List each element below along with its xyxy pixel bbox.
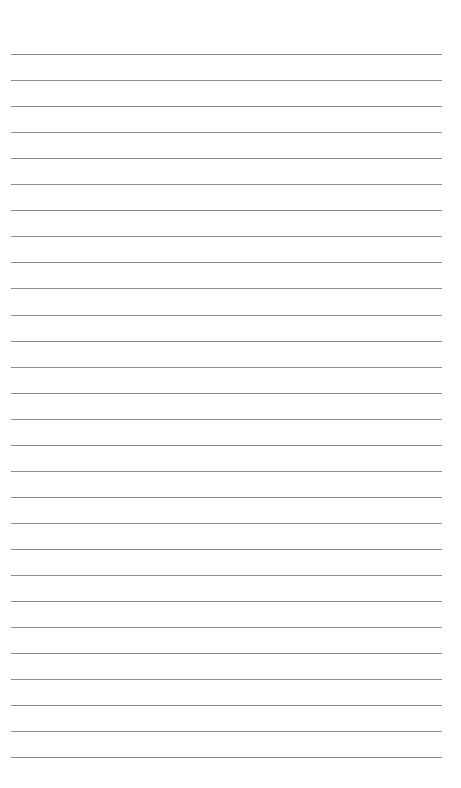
ruled-line <box>11 288 442 289</box>
ruled-line <box>11 601 442 602</box>
ruled-sheet <box>0 0 461 788</box>
ruled-line <box>11 549 442 550</box>
ruled-line <box>11 575 442 576</box>
ruled-line <box>11 705 442 706</box>
ruled-line <box>11 445 442 446</box>
ruled-line <box>11 80 442 81</box>
ruled-line <box>11 106 442 107</box>
ruled-line <box>11 627 442 628</box>
ruled-line <box>11 132 442 133</box>
ruled-line <box>11 497 442 498</box>
ruled-line <box>11 367 442 368</box>
ruled-line <box>11 210 442 211</box>
ruled-line <box>11 757 442 758</box>
ruled-line <box>11 158 442 159</box>
ruled-line <box>11 54 442 55</box>
ruled-line <box>11 471 442 472</box>
ruled-line <box>11 236 442 237</box>
ruled-line <box>11 262 442 263</box>
ruled-line <box>11 679 442 680</box>
ruled-line <box>11 653 442 654</box>
ruled-line <box>11 315 442 316</box>
ruled-line <box>11 731 442 732</box>
ruled-line <box>11 184 442 185</box>
ruled-line <box>11 393 442 394</box>
ruled-line <box>11 419 442 420</box>
ruled-line <box>11 523 442 524</box>
ruled-line <box>11 341 442 342</box>
